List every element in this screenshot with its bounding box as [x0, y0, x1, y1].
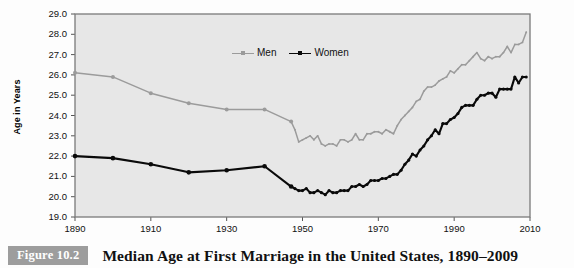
x-tick-label: 1970 [356, 223, 400, 234]
figure-number-badge: Figure 10.2 [8, 246, 88, 266]
figure-caption-row: Figure 10.2 Median Age at First Marriage… [0, 243, 574, 268]
x-tick-label: 1950 [281, 223, 325, 234]
figure-caption-text: Median Age at First Marriage in the Unit… [102, 247, 518, 265]
legend-line-marker-icon [289, 49, 311, 58]
legend-line-marker-icon [232, 49, 254, 58]
x-tick-label: 1990 [432, 223, 476, 234]
legend-item-men: Men [232, 48, 276, 58]
x-axis-tick-labels: 1890191019301950197019902010 [0, 0, 574, 240]
x-tick-label: 1910 [129, 223, 173, 234]
x-tick-label: 1890 [53, 223, 97, 234]
x-tick-label: 2010 [508, 223, 552, 234]
legend-item-women: Women [289, 48, 348, 58]
chart-area: Age in Years 29.028.027.026.025.024.023.… [0, 0, 574, 240]
x-tick-label: 1930 [205, 223, 249, 234]
legend-label-women: Women [314, 48, 348, 58]
legend-label-men: Men [257, 48, 276, 58]
chart-legend: Men Women [232, 48, 349, 58]
figure-container: Age in Years 29.028.027.026.025.024.023.… [0, 0, 574, 268]
